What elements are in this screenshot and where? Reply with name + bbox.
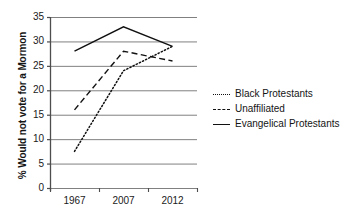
legend-item-label: Evangelical Protestants	[235, 118, 340, 129]
legend-item-evangelical-protestants: Evangelical Protestants	[213, 116, 361, 131]
legend-item-unaffiliated: Unaffiliated	[213, 101, 361, 116]
solid-line-icon	[213, 119, 230, 129]
dashed-line-icon	[213, 104, 230, 114]
series-line-0	[75, 46, 173, 151]
series-line-2	[75, 27, 173, 51]
chart-legend: Black Protestants Unaffiliated Evangelic…	[213, 86, 361, 131]
series-line-1	[75, 51, 173, 110]
legend-item-label: Black Protestants	[235, 88, 313, 99]
dotted-line-icon	[213, 89, 230, 99]
legend-item-black-protestants: Black Protestants	[213, 86, 361, 101]
legend-item-label: Unaffiliated	[235, 103, 285, 114]
chart-container: % Would not vote for a Mormon 0510152025…	[0, 0, 362, 222]
